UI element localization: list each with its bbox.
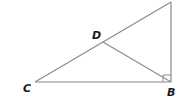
triangle-diagram: D C B [0,0,184,100]
segment-db [103,42,171,82]
label-c: C [23,82,31,95]
label-b: B [167,86,175,99]
label-d: D [92,29,101,42]
